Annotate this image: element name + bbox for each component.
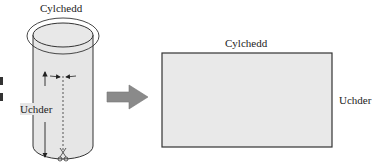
cropped-left-marks bbox=[0, 77, 3, 101]
cylinder bbox=[27, 18, 99, 161]
rectangle-top-label: Cylchedd bbox=[225, 37, 267, 49]
rectangle-side-label: Uchder bbox=[339, 94, 371, 106]
cylinder-height-label: Uchder bbox=[20, 103, 52, 115]
unrolled-rectangle bbox=[162, 53, 332, 147]
cylinder-circumference-label: Cylchedd bbox=[40, 2, 82, 14]
right-arrow-icon bbox=[107, 85, 148, 109]
net-of-cylinder-diagram bbox=[0, 0, 390, 166]
